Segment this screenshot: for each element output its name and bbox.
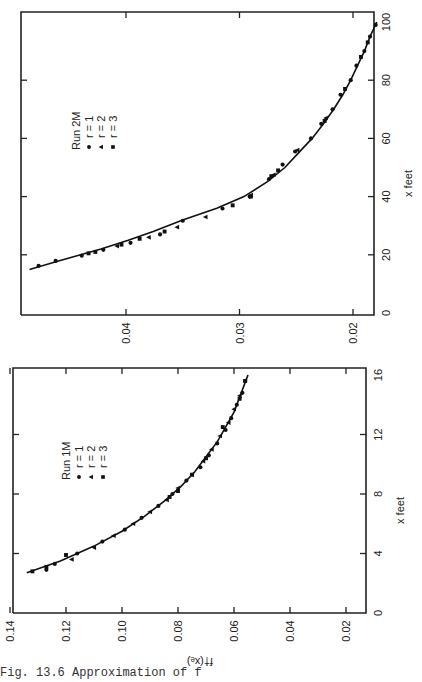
y-tick-label: 0.08 [172, 620, 184, 641]
square-marker [276, 168, 280, 172]
square-marker [249, 195, 253, 199]
square-marker [231, 203, 235, 207]
panel-run-1m: 0.020.040.060.080.100.120.140481216x fee… [4, 368, 406, 642]
square-marker [87, 251, 91, 255]
square-marker [101, 475, 105, 479]
circle-marker [100, 540, 104, 544]
circle-marker [80, 254, 84, 258]
circle-marker [54, 259, 58, 263]
square-marker [243, 379, 247, 383]
square-marker [343, 87, 347, 91]
x-tick-label: 16 [372, 369, 384, 381]
figure-caption: Fig. 13.6 Approximation of f [0, 666, 422, 682]
circle-marker [362, 49, 366, 53]
triangle-marker [203, 215, 208, 220]
square-marker [238, 397, 242, 401]
circle-marker [123, 528, 127, 532]
square-marker [176, 489, 180, 493]
legend-title: Run 2M [70, 111, 82, 150]
x-tick-label: 8 [372, 491, 384, 497]
legend-entry-label: r = 1 [83, 116, 95, 138]
legend-entry-label: r = 2 [95, 116, 107, 138]
circle-marker [128, 241, 132, 245]
series-r1 [44, 379, 247, 572]
plot-frame [13, 368, 366, 613]
square-marker [30, 569, 34, 573]
circle-marker [220, 206, 224, 210]
square-marker [93, 250, 97, 254]
circle-marker [37, 264, 41, 268]
square-marker [120, 243, 124, 247]
x-axis-label: x feet [394, 497, 406, 524]
circle-marker [140, 516, 144, 520]
circle-marker [198, 465, 202, 469]
square-marker [44, 565, 48, 569]
x-tick-label: 20 [380, 249, 392, 261]
circle-marker [75, 551, 79, 555]
circle-marker [368, 34, 372, 38]
legend: Run 1Mr = 1r = 2r = 3 [60, 441, 109, 480]
circle-marker [235, 403, 239, 407]
circle-marker [309, 136, 313, 140]
circle-marker [77, 475, 81, 479]
series-r2 [114, 116, 328, 249]
circle-marker [338, 93, 342, 97]
x-tick-label: 0 [372, 610, 384, 616]
series-r3 [87, 40, 370, 255]
triangle-marker [69, 557, 74, 562]
y-tick-label: 0.03 [234, 322, 246, 343]
figure-svg: 0.020.030.04020406080100x feetRun 2Mr = … [0, 0, 422, 682]
circle-marker [156, 504, 160, 508]
plot-frame [21, 12, 374, 315]
y-tick-label: 0.02 [340, 620, 352, 641]
square-marker [366, 40, 370, 44]
circle-marker [184, 479, 188, 483]
circle-marker [354, 64, 358, 68]
triangle-marker [146, 235, 151, 240]
x-tick-label: 60 [380, 132, 392, 144]
circle-marker [181, 219, 185, 223]
y-tick-label: 0.04 [120, 322, 132, 343]
legend-entry-label: r = 1 [73, 446, 85, 468]
square-marker [168, 495, 172, 499]
y-tick-label: 0.12 [60, 620, 72, 641]
legend: Run 2Mr = 1r = 2r = 3 [70, 111, 119, 150]
circle-marker [101, 248, 105, 252]
panel-run-2m: 0.020.030.04020406080100x feetRun 2Mr = … [21, 12, 414, 344]
y-tick-label: 0.06 [228, 620, 240, 641]
x-tick-label: 100 [380, 13, 392, 31]
square-marker [190, 473, 194, 477]
circle-marker [53, 562, 57, 566]
square-marker [163, 230, 167, 234]
circle-marker [87, 145, 91, 149]
series-r2 [69, 393, 242, 561]
square-marker [221, 425, 225, 429]
x-tick-label: 4 [372, 550, 384, 556]
circle-marker [158, 232, 162, 236]
y-tick-label: 0.10 [116, 620, 128, 641]
legend-entry-label: r = 2 [85, 446, 97, 468]
y-tick-label: 0.02 [347, 322, 359, 343]
circle-marker [330, 107, 334, 111]
circle-marker [374, 23, 378, 27]
circle-marker [349, 78, 353, 82]
x-tick-label: 12 [372, 428, 384, 440]
y-tick-label: 0.04 [284, 620, 296, 641]
x-axis-label: x feet [402, 170, 414, 197]
square-marker [111, 145, 115, 149]
series-r1 [37, 23, 378, 268]
circle-marker [229, 416, 233, 420]
x-tick-label: 80 [380, 74, 392, 86]
triangle-marker [174, 225, 179, 230]
square-marker [269, 174, 273, 178]
x-tick-label: 0 [380, 310, 392, 316]
circle-marker [215, 441, 219, 445]
legend-entry-label: r = 3 [107, 116, 119, 138]
y-tick-label: 0.14 [4, 620, 16, 641]
circle-marker [281, 163, 285, 167]
triangle-marker [89, 475, 93, 479]
triangle-marker [99, 145, 103, 149]
legend-title: Run 1M [60, 441, 72, 480]
square-marker [359, 55, 363, 59]
square-marker [138, 237, 142, 241]
